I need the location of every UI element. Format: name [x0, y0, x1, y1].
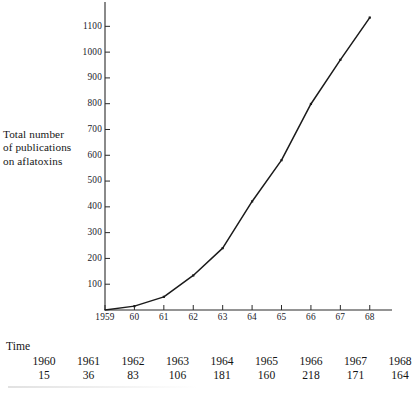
y-axis-title-line-2: of publications — [3, 141, 101, 154]
chart-series-line — [105, 18, 370, 310]
y-axis-title: Total number of publications on aflatoxi… — [3, 128, 101, 168]
table-column-1960: 196015 — [32, 355, 55, 383]
y-tick-label-900: 900 — [68, 73, 102, 82]
table-column-1965: 1965160 — [255, 355, 278, 383]
table-value: 83 — [121, 369, 144, 383]
table-year-label: 1964 — [210, 355, 233, 369]
x-tick-label-1961: 61 — [159, 312, 169, 323]
y-tick-label-300: 300 — [68, 228, 102, 237]
table-year-label: 1965 — [255, 355, 278, 369]
chart-data-points — [133, 16, 371, 307]
aflatoxin-publications-figure: 10020030040050060070080090010001100 Tota… — [0, 0, 417, 394]
x-tick-label-1965: 65 — [277, 312, 287, 323]
table-year-label: 1961 — [77, 355, 100, 369]
table-column-1964: 1964181 — [210, 355, 233, 383]
y-tick-label-1000: 1000 — [68, 48, 102, 57]
table-value: 218 — [299, 369, 322, 383]
scan-artifact — [8, 386, 198, 388]
table-column-1966: 1966218 — [299, 355, 322, 383]
x-tick-label-1966: 66 — [306, 312, 316, 323]
y-axis-title-line-1: Total number — [3, 128, 101, 141]
table-heading-time: Time — [6, 340, 30, 353]
table-value: 171 — [344, 369, 367, 383]
table-column-1963: 1963106 — [166, 355, 189, 383]
table-value: 106 — [166, 369, 189, 383]
plot-area: 10020030040050060070080090010001100 Tota… — [0, 0, 417, 330]
table-column-1967: 1967171 — [344, 355, 367, 383]
table-year-label: 1963 — [166, 355, 189, 369]
table-year-label: 1968 — [388, 355, 411, 369]
table-value: 164 — [388, 369, 411, 383]
table-column-1961: 196136 — [77, 355, 100, 383]
table-columns: 1960151961361962831963106196418119651601… — [0, 355, 417, 385]
y-tick-label-100: 100 — [68, 280, 102, 289]
y-tick-label-1100: 1100 — [68, 22, 102, 31]
table-value: 36 — [77, 369, 100, 383]
x-tick-label-1967: 67 — [335, 312, 345, 323]
table-year-label: 1962 — [121, 355, 144, 369]
x-tick-label-1968: 68 — [365, 312, 375, 323]
y-axis-title-line-3: on aflatoxins — [3, 155, 101, 168]
x-axis-tick-labels: 1959606162636465666768 — [0, 312, 417, 328]
table-year-label: 1960 — [32, 355, 55, 369]
table-column-1962: 196283 — [121, 355, 144, 383]
table-column-1968: 1968164 — [388, 355, 411, 383]
x-tick-label-1964: 64 — [247, 312, 257, 323]
x-tick-label-1960: 60 — [130, 312, 140, 323]
y-tick-label-400: 400 — [68, 202, 102, 211]
table-year-label: 1966 — [299, 355, 322, 369]
table-value: 15 — [32, 369, 55, 383]
x-tick-label-1959: 1959 — [95, 312, 114, 323]
y-tick-label-800: 800 — [68, 99, 102, 108]
y-tick-label-500: 500 — [68, 176, 102, 185]
table-year-label: 1967 — [344, 355, 367, 369]
x-tick-label-1963: 63 — [218, 312, 228, 323]
x-tick-label-1962: 62 — [188, 312, 198, 323]
y-tick-label-200: 200 — [68, 254, 102, 263]
table-value: 160 — [255, 369, 278, 383]
table-value: 181 — [210, 369, 233, 383]
